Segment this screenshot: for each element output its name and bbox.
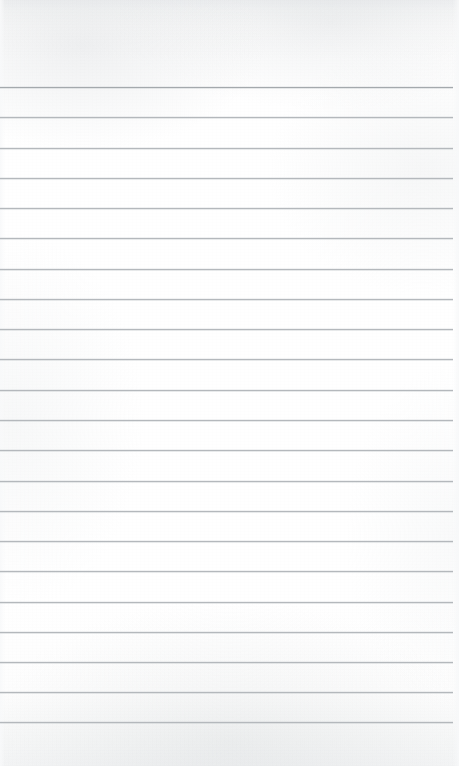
page-right-edge (453, 0, 459, 766)
paper-shading (0, 0, 459, 766)
page-header-blank-area (0, 0, 453, 87)
scanned-page (0, 0, 459, 766)
page-left-edge (0, 0, 5, 766)
page-footer-blank-area (0, 724, 453, 766)
